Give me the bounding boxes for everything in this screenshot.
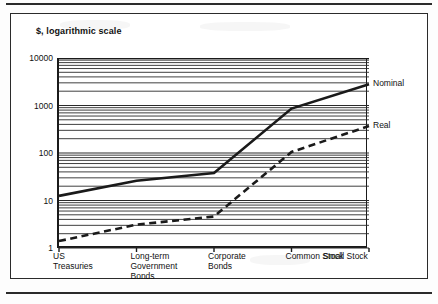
- x-tick-label: USTreasuries: [53, 251, 93, 271]
- series-label-nominal: Nominal: [373, 79, 404, 88]
- bottom-divider-rule: [6, 292, 432, 294]
- plot-area: [57, 58, 367, 248]
- y-tick-label: 100: [7, 149, 53, 158]
- x-tick-label-line: Small Stock: [323, 251, 368, 261]
- x-tick-label-line: Long-term: [131, 251, 178, 261]
- y-tick-label: 10000: [7, 54, 53, 63]
- x-tick-label: CorporateBonds: [208, 251, 246, 271]
- x-axis-tick-labels: USTreasuriesLong-termGovernmentBondsCorp…: [10, 251, 430, 291]
- y-tick-label: 1000: [7, 102, 53, 111]
- x-tick-label: Long-termGovernmentBonds: [131, 251, 178, 281]
- top-divider-rule: [6, 3, 432, 5]
- x-tick-label: Small Stock: [323, 251, 368, 261]
- chart-title: $, logarithmic scale: [36, 26, 122, 36]
- series-label-real: Real: [373, 121, 390, 130]
- y-tick-label: 10: [7, 197, 53, 206]
- figure-page: $, logarithmic scale 100001000100101 UST…: [0, 0, 438, 304]
- x-tick-label-line: Corporate: [208, 251, 246, 261]
- x-tick-label-line: US: [53, 251, 93, 261]
- y-axis-tick-labels: 100001000100101: [5, 58, 53, 248]
- x-tick-label-line: Government: [131, 261, 178, 271]
- x-tick-label-line: Treasuries: [53, 261, 93, 271]
- x-tick-label-line: Bonds: [208, 261, 246, 271]
- series-lines: [59, 58, 369, 248]
- x-tick-label-line: Bonds: [131, 271, 178, 281]
